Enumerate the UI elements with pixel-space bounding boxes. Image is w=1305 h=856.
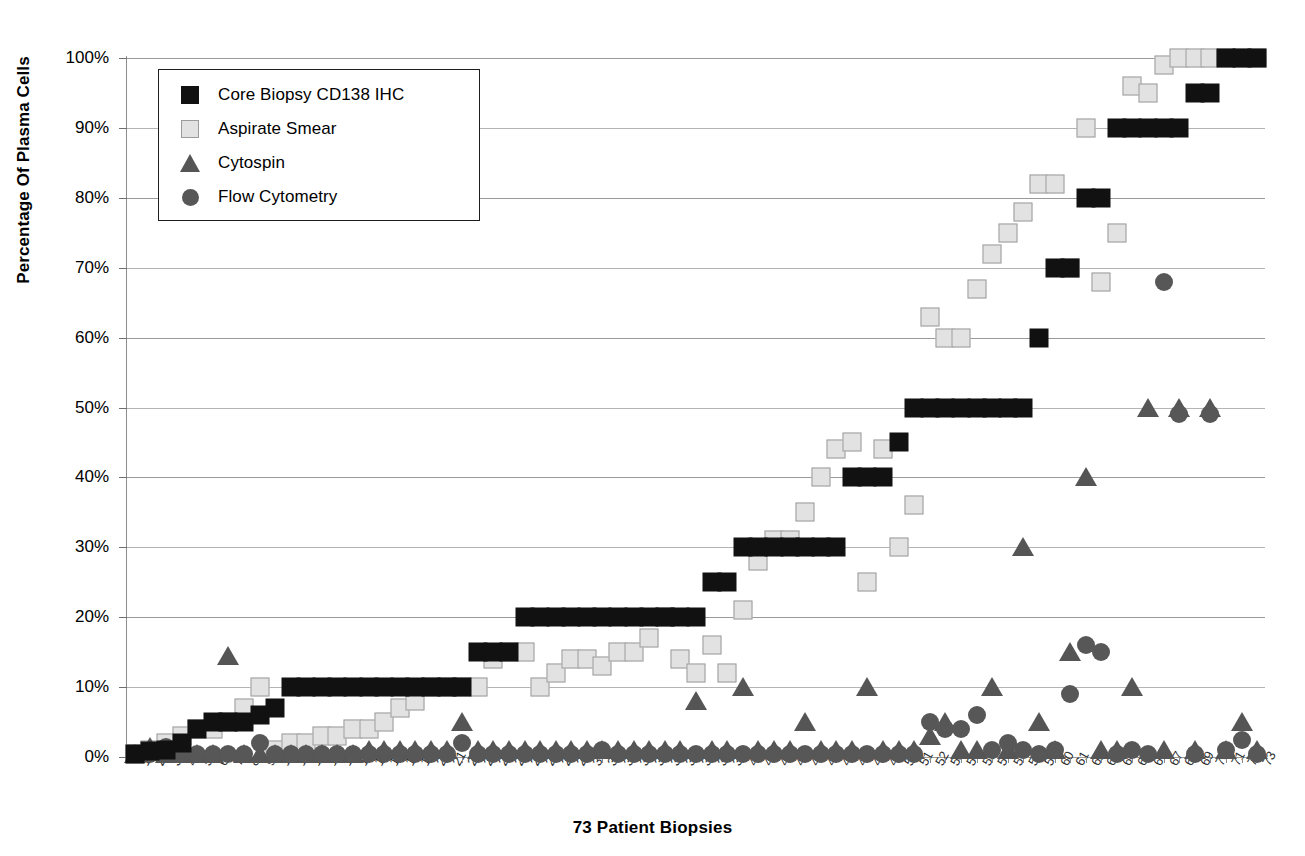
- point-core-biopsy: [687, 608, 706, 627]
- y-axis-tick-label: 100%: [39, 48, 109, 68]
- point-aspirate-smear: [796, 503, 815, 522]
- point-flow-cytometry: [1155, 273, 1173, 291]
- x-axis-tick: [1070, 757, 1071, 763]
- point-core-biopsy: [718, 573, 737, 592]
- point-core-biopsy: [874, 468, 893, 487]
- top-clipped-text-artifact: [520, 0, 940, 3]
- point-core-biopsy: [453, 678, 472, 697]
- point-cytospin: [1012, 537, 1034, 556]
- point-aspirate-smear: [1045, 174, 1064, 193]
- point-cytospin: [451, 712, 473, 731]
- x-axis-tick: [462, 757, 463, 763]
- point-aspirate-smear: [983, 244, 1002, 263]
- y-axis-tick-label: 40%: [39, 467, 109, 487]
- point-aspirate-smear: [640, 629, 659, 648]
- point-flow-cytometry: [1046, 741, 1064, 759]
- point-aspirate-smear: [889, 538, 908, 557]
- y-axis-tick: [119, 477, 127, 478]
- point-core-biopsy: [1201, 83, 1220, 102]
- legend-item-cytospin[interactable]: Cytospin: [175, 148, 285, 178]
- point-aspirate-smear: [967, 279, 986, 298]
- y-axis-tick-label: 90%: [39, 118, 109, 138]
- legend-item-aspirate-smear[interactable]: Aspirate Smear: [175, 114, 337, 144]
- point-flow-cytometry: [1139, 745, 1157, 763]
- y-axis-tick: [119, 687, 127, 688]
- point-flow-cytometry: [1233, 731, 1251, 749]
- point-aspirate-smear: [905, 496, 924, 515]
- point-aspirate-smear: [1076, 118, 1095, 137]
- point-cytospin: [794, 712, 816, 731]
- point-aspirate-smear: [811, 468, 830, 487]
- black-square-key: [175, 86, 205, 104]
- point-aspirate-smear: [1139, 83, 1158, 102]
- point-core-biopsy: [266, 699, 285, 718]
- point-core-biopsy: [1248, 49, 1267, 68]
- point-flow-cytometry: [1248, 745, 1266, 763]
- point-flow-cytometry: [968, 706, 986, 724]
- point-flow-cytometry: [1061, 685, 1079, 703]
- legend-label: Cytospin: [218, 153, 285, 173]
- point-aspirate-smear: [250, 678, 269, 697]
- legend-item-flow-cytometry[interactable]: Flow Cytometry: [175, 182, 337, 212]
- y-axis-tick: [119, 128, 127, 129]
- y-axis-tick: [119, 617, 127, 618]
- point-cytospin: [732, 677, 754, 696]
- point-cytospin: [981, 677, 1003, 696]
- y-axis-tick-label: 50%: [39, 398, 109, 418]
- y-axis-tick-label: 30%: [39, 537, 109, 557]
- x-axis-tick: [1242, 757, 1243, 763]
- point-flow-cytometry: [905, 745, 923, 763]
- point-aspirate-smear: [687, 664, 706, 683]
- gray-square-key: [175, 120, 205, 138]
- point-aspirate-smear: [920, 307, 939, 326]
- point-cytospin: [685, 691, 707, 710]
- point-aspirate-smear: [842, 433, 861, 452]
- y-axis-tick: [119, 268, 127, 269]
- point-aspirate-smear: [702, 636, 721, 655]
- point-flow-cytometry: [952, 720, 970, 738]
- y-axis-tick-label: 80%: [39, 188, 109, 208]
- point-core-biopsy: [499, 643, 518, 662]
- x-axis-tick: [930, 757, 931, 763]
- y-axis-tick: [119, 198, 127, 199]
- point-aspirate-smear: [858, 573, 877, 592]
- legend-label: Aspirate Smear: [218, 119, 337, 139]
- point-core-biopsy: [889, 433, 908, 452]
- point-core-biopsy: [1170, 118, 1189, 137]
- point-aspirate-smear: [1107, 223, 1126, 242]
- point-core-biopsy: [1014, 398, 1033, 417]
- point-flow-cytometry: [1092, 643, 1110, 661]
- legend-label: Flow Cytometry: [218, 187, 337, 207]
- point-core-biopsy: [1061, 258, 1080, 277]
- point-cytospin: [1231, 712, 1253, 731]
- point-cytospin: [1028, 712, 1050, 731]
- point-aspirate-smear: [1014, 202, 1033, 221]
- chart-figure: Percentage Of Plasma Cells 0%10%20%30%40…: [0, 0, 1305, 856]
- gridline: [127, 408, 1265, 409]
- point-flow-cytometry: [1186, 745, 1204, 763]
- gray-triangle-key: [175, 154, 205, 172]
- gridline: [127, 58, 1265, 59]
- point-aspirate-smear: [1092, 272, 1111, 291]
- y-axis-tick-label: 10%: [39, 677, 109, 697]
- gridline: [127, 338, 1265, 339]
- gridline: [127, 268, 1265, 269]
- y-axis-tick-label: 70%: [39, 258, 109, 278]
- point-flow-cytometry: [1170, 405, 1188, 423]
- legend-item-core-biopsy[interactable]: Core Biopsy CD138 IHC: [175, 80, 404, 110]
- point-flow-cytometry: [1217, 741, 1235, 759]
- point-flow-cytometry: [235, 745, 253, 763]
- point-core-biopsy: [1029, 328, 1048, 347]
- point-cytospin: [217, 646, 239, 665]
- y-axis-tick-label: 60%: [39, 328, 109, 348]
- y-axis-title: Percentage Of Plasma Cells: [14, 40, 34, 300]
- point-core-biopsy: [827, 538, 846, 557]
- point-flow-cytometry: [438, 745, 456, 763]
- point-flow-cytometry: [1201, 405, 1219, 423]
- y-axis-tick: [119, 338, 127, 339]
- x-axis-title: 73 Patient Biopsies: [0, 818, 1305, 838]
- y-axis-tick: [119, 547, 127, 548]
- y-axis-tick-label: 20%: [39, 607, 109, 627]
- point-aspirate-smear: [733, 601, 752, 620]
- chart-legend: Core Biopsy CD138 IHC Aspirate Smear Cyt…: [158, 69, 480, 221]
